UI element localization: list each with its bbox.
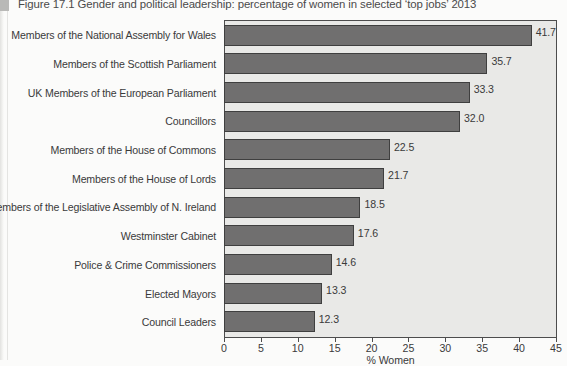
bar-value-label: 18.5 (364, 198, 384, 210)
category-label-row: Elected Mayors (0, 279, 220, 308)
x-axis-tick-label: 5 (258, 342, 264, 354)
bar (224, 254, 332, 275)
bar-chart-figure: Members of the National Assembly for Wal… (0, 14, 567, 360)
bar (224, 225, 354, 246)
bar (224, 53, 487, 74)
category-label-row: Members of the Legislative Assembly of N… (0, 193, 220, 222)
category-axis-labels: Members of the National Assembly for Wal… (0, 21, 220, 337)
bar-row: 13.3 (224, 279, 556, 308)
x-axis-tick-label: 10 (292, 342, 304, 354)
x-axis-tick-label: 45 (550, 342, 562, 354)
category-label-row: Members of the House of Lords (0, 164, 220, 193)
bar (224, 168, 384, 189)
category-label: Members of the House of Commons (50, 144, 216, 156)
bar-value-label: 32.0 (464, 112, 484, 124)
bar-value-label: 17.6 (358, 227, 378, 239)
category-label-row: Members of the National Assembly for Wal… (0, 21, 220, 50)
bar (224, 311, 315, 332)
category-label-row: Council Leaders (0, 308, 220, 337)
category-label: Members of the House of Lords (72, 173, 216, 185)
bar (224, 111, 460, 132)
x-axis-title: % Women (224, 354, 557, 366)
category-label-row: UK Members of the European Parliament (0, 78, 220, 107)
category-label: UK Members of the European Parliament (28, 87, 216, 99)
x-axis-tick-label: 35 (476, 342, 488, 354)
bar-row: 21.7 (224, 164, 556, 193)
bar-value-label: 22.5 (394, 141, 414, 153)
x-axis-tick-label: 0 (221, 342, 227, 354)
bar-value-label: 33.3 (474, 83, 494, 95)
bar-value-label: 21.7 (388, 169, 408, 181)
category-label: Elected Mayors (145, 288, 216, 300)
category-label: Council Leaders (142, 316, 216, 328)
bar-series: 41.735.733.332.022.521.718.517.614.613.3… (224, 21, 556, 337)
bar-row: 17.6 (224, 222, 556, 251)
x-axis-tick-label: 25 (403, 342, 415, 354)
category-label-row: Members of the Scottish Parliament (0, 50, 220, 79)
bar-row: 35.7 (224, 50, 556, 79)
bar (224, 82, 470, 103)
category-label: Police & Crime Commissioners (74, 259, 216, 271)
bar (224, 139, 390, 160)
bar-row: 18.5 (224, 193, 556, 222)
category-label: Members of the Scottish Parliament (53, 58, 216, 70)
bar-row: 14.6 (224, 251, 556, 280)
bar (224, 25, 532, 46)
bar-value-label: 13.3 (326, 284, 346, 296)
page-corner-mark (0, 0, 9, 11)
bar-value-label: 12.3 (319, 313, 339, 325)
category-label-row: Police & Crime Commissioners (0, 251, 220, 280)
category-label: Westminster Cabinet (121, 230, 216, 242)
figure-caption: Figure 17.1 Gender and political leaders… (18, 0, 563, 14)
bar (224, 283, 322, 304)
category-label-row: Councillors (0, 107, 220, 136)
bar-row: 41.7 (224, 21, 556, 50)
category-label: Councillors (165, 115, 216, 127)
bar-row: 33.3 (224, 78, 556, 107)
category-label: Members of the Legislative Assembly of N… (0, 201, 216, 213)
x-axis-tick-label: 20 (366, 342, 378, 354)
x-axis-tick-label: 40 (513, 342, 525, 354)
x-axis-tick-label: 15 (329, 342, 341, 354)
bar-row: 22.5 (224, 136, 556, 165)
category-label-row: Westminster Cabinet (0, 222, 220, 251)
bar-value-label: 41.7 (536, 26, 556, 38)
x-axis-tick-label: 30 (439, 342, 451, 354)
bar-value-label: 35.7 (491, 55, 511, 67)
bar-value-label: 14.6 (336, 256, 356, 268)
category-label: Members of the National Assembly for Wal… (11, 29, 216, 41)
bar (224, 197, 360, 218)
category-label-row: Members of the House of Commons (0, 136, 220, 165)
bar-row: 32.0 (224, 107, 556, 136)
bar-row: 12.3 (224, 308, 556, 337)
